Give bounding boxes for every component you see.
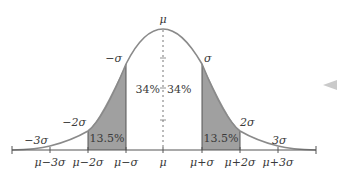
- pct-right-center: 34%: [167, 83, 191, 96]
- arrow-pointer-icon: [323, 80, 337, 90]
- tick-label-mu-minus-3sigma: μ−3σ: [35, 156, 66, 169]
- tick-label-mu-plus-sigma: μ+σ: [190, 156, 214, 169]
- label-minus-2sigma: −2σ: [62, 116, 86, 129]
- pct-right-shaded: 13.5%: [204, 132, 239, 145]
- normal-distribution-diagram: μ −σ σ −2σ 2σ −3σ 3σ 34% 34% 13.5% 13.5%…: [0, 0, 337, 176]
- label-minus-sigma: −σ: [105, 52, 122, 65]
- tick-label-mu-plus-2sigma: μ+2σ: [225, 156, 256, 169]
- pct-left-center: 34%: [136, 83, 160, 96]
- peak-label: μ: [159, 13, 166, 26]
- tick-label-mu-minus-sigma: μ−σ: [114, 156, 138, 169]
- label-plus-sigma: σ: [204, 52, 212, 65]
- tick-label-mu: μ: [159, 156, 166, 169]
- label-plus-2sigma: 2σ: [239, 116, 255, 129]
- tick-label-mu-minus-2sigma: μ−2σ: [73, 156, 104, 169]
- label-plus-3sigma: 3σ: [272, 134, 287, 147]
- tick-label-mu-plus-3sigma: μ+3σ: [263, 156, 294, 169]
- label-minus-3sigma: −3σ: [24, 134, 48, 147]
- bell-curve: [12, 29, 316, 150]
- pct-left-shaded: 13.5%: [90, 132, 125, 145]
